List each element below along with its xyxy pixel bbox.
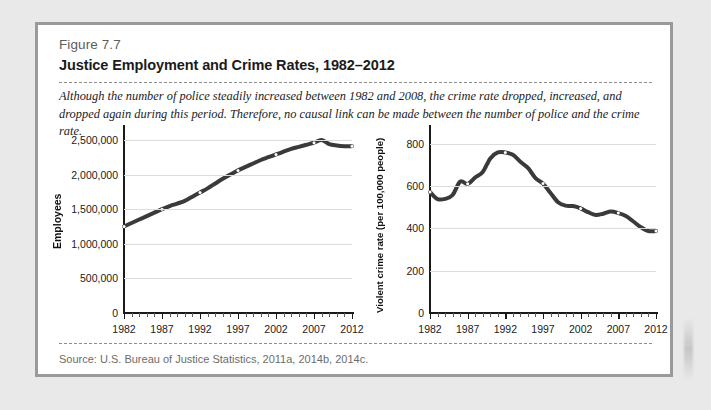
x-tick-minor: [154, 313, 155, 317]
x-tick-minor: [566, 313, 567, 317]
x-tick-minor: [626, 313, 627, 317]
x-tick-minor: [573, 313, 574, 317]
x-tick-minor: [588, 313, 589, 317]
gridline: [124, 244, 352, 245]
x-tick-minor: [498, 313, 499, 317]
x-tick-minor: [223, 313, 224, 317]
data-point-marker: [275, 153, 278, 156]
x-tick-minor: [306, 313, 307, 317]
data-point-marker: [313, 141, 316, 144]
x-tick-minor: [261, 313, 262, 317]
series-line-violent-crime-rate: [430, 133, 656, 313]
divider-top: [59, 82, 652, 83]
divider-bottom: [59, 343, 652, 344]
x-tick-minor: [215, 313, 216, 317]
y-axis-title-violent-crime-rate: Violent crime rate (per 100,000 people): [372, 129, 386, 321]
gridline: [124, 209, 352, 210]
x-tick-minor: [344, 313, 345, 317]
x-tick-label: 1997: [226, 323, 249, 335]
x-tick-minor: [284, 313, 285, 317]
x-tick-minor: [329, 313, 330, 317]
x-tick-major: [468, 313, 469, 319]
gridline: [430, 144, 656, 145]
x-tick-minor: [208, 313, 209, 317]
x-tick-label: 2012: [644, 323, 667, 335]
x-tick-label: 2012: [340, 323, 363, 335]
x-tick-minor: [483, 313, 484, 317]
gridline: [430, 186, 656, 187]
data-point-marker: [542, 182, 545, 185]
x-tick-minor: [490, 313, 491, 317]
x-tick-minor: [192, 313, 193, 317]
plot-area-employees: 0500,0001,000,0001,500,0002,000,0002,500…: [124, 133, 352, 313]
x-tick-minor: [177, 313, 178, 317]
data-point-marker: [199, 191, 202, 194]
x-tick-minor: [253, 313, 254, 317]
gridline: [430, 228, 656, 229]
figure-page: Figure 7.7 Justice Employment and Crime …: [0, 0, 711, 410]
x-tick-minor: [337, 313, 338, 317]
gridline: [124, 278, 352, 279]
y-tick-label: 500,000: [80, 272, 118, 284]
figure-source: Source: U.S. Bureau of Justice Statistic…: [59, 353, 368, 365]
x-tick-minor: [460, 313, 461, 317]
y-tick-label: 0: [112, 307, 118, 319]
plot-area-violent-crime-rate: 0200400600800198219871992199720022007201…: [430, 133, 656, 313]
y-tick-label: 1,000,000: [71, 238, 118, 250]
data-point-marker: [351, 145, 354, 148]
x-tick-label: 1987: [456, 323, 479, 335]
x-tick-minor: [528, 313, 529, 317]
y-tick-label: 0: [418, 307, 424, 319]
x-tick-major: [618, 313, 619, 319]
gridline: [124, 175, 352, 176]
x-tick-major: [200, 313, 201, 319]
x-tick-minor: [551, 313, 552, 317]
x-tick-major: [314, 313, 315, 319]
x-tick-minor: [558, 313, 559, 317]
x-tick-major: [656, 313, 657, 319]
figure-number-label: Figure 7.7: [59, 37, 121, 52]
x-tick-minor: [611, 313, 612, 317]
x-tick-minor: [603, 313, 604, 317]
y-axis-title-employees: Employees: [50, 129, 64, 314]
chart-violent-crime-rate: Violent crime rate (per 100,000 people) …: [370, 129, 662, 337]
x-tick-minor: [132, 313, 133, 317]
figure-title: Justice Employment and Crime Rates, 1982…: [59, 57, 395, 73]
x-tick-label: 1992: [188, 323, 211, 335]
x-tick-minor: [170, 313, 171, 317]
y-tick-label: 2,000,000: [71, 169, 118, 181]
x-tick-minor: [535, 313, 536, 317]
x-tick-minor: [230, 313, 231, 317]
x-tick-major: [505, 313, 506, 319]
x-tick-label: 2002: [264, 323, 287, 335]
x-tick-label: 1987: [150, 323, 173, 335]
y-tick-label: 400: [406, 222, 424, 234]
data-point-marker: [429, 191, 432, 194]
x-tick-label: 2007: [302, 323, 325, 335]
y-tick-label: 200: [406, 265, 424, 277]
x-tick-minor: [322, 313, 323, 317]
x-tick-minor: [596, 313, 597, 317]
data-point-marker: [579, 207, 582, 210]
x-tick-minor: [438, 313, 439, 317]
y-tick-label: 600: [406, 180, 424, 192]
gridline: [430, 271, 656, 272]
x-tick-minor: [648, 313, 649, 317]
x-tick-minor: [513, 313, 514, 317]
gridline: [124, 140, 352, 141]
y-tick-label: 2,500,000: [71, 134, 118, 146]
x-tick-major: [124, 313, 125, 319]
data-point-marker: [504, 151, 507, 154]
data-point-marker: [466, 182, 469, 185]
x-tick-label: 1982: [418, 323, 441, 335]
figure-box: Figure 7.7 Justice Employment and Crime …: [35, 22, 673, 377]
data-point-marker: [655, 230, 658, 233]
x-tick-minor: [633, 313, 634, 317]
x-tick-minor: [268, 313, 269, 317]
x-tick-minor: [445, 313, 446, 317]
x-tick-label: 1982: [112, 323, 135, 335]
x-tick-minor: [246, 313, 247, 317]
x-tick-minor: [475, 313, 476, 317]
x-tick-minor: [291, 313, 292, 317]
x-tick-label: 1997: [531, 323, 554, 335]
